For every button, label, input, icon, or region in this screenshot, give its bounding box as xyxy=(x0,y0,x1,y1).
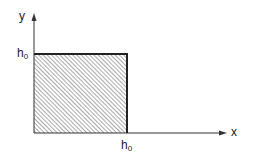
y-side-label-base: h xyxy=(17,46,24,60)
hatched-square-region xyxy=(34,54,127,133)
x-side-label-subscript: 0 xyxy=(128,144,132,153)
x-axis-label: x xyxy=(231,126,237,138)
y-side-label-subscript: 0 xyxy=(24,52,28,61)
y-axis-arrow-icon xyxy=(32,13,37,21)
y-axis-label: y xyxy=(19,10,25,22)
x-axis-arrow-icon xyxy=(219,131,227,136)
y-axis-label-text: y xyxy=(19,9,25,23)
y-side-label-h0: h0 xyxy=(17,47,28,61)
x-side-label-h0: h0 xyxy=(121,139,132,153)
square-region-diagram xyxy=(0,0,258,159)
x-side-label-base: h xyxy=(121,138,128,152)
x-axis-label-text: x xyxy=(231,125,237,139)
